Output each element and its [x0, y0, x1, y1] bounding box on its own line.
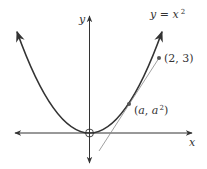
x-axis-label: x — [189, 136, 196, 149]
tangent-point-label: (a, a2) — [134, 104, 168, 117]
parabola-diagram: y x y = x2 (2, 3) (a, a2) — [0, 0, 207, 169]
external-point-label: (2, 3) — [164, 52, 194, 65]
tangent-point-dot — [127, 102, 131, 106]
y-axis-label: y — [78, 13, 86, 26]
external-point-dot — [157, 56, 161, 60]
curve-label: y = x2 — [149, 8, 185, 21]
